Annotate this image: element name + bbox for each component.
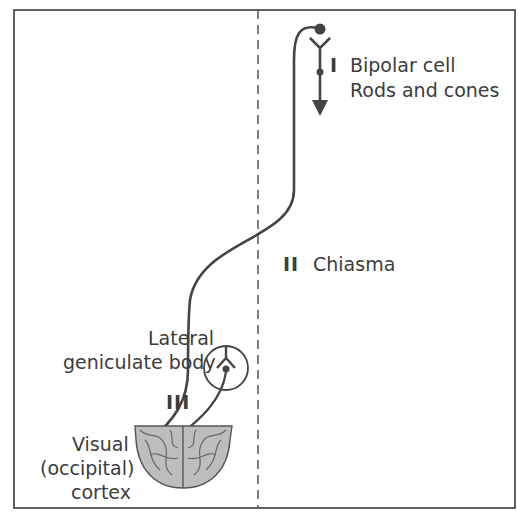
ganglion-cell-body bbox=[315, 24, 326, 35]
bipolar-cell-label: Bipolar cell bbox=[350, 53, 455, 77]
stage-3-numeral: III bbox=[166, 390, 190, 414]
cortex-label: cortex bbox=[71, 480, 131, 504]
chiasma-label: Chiasma bbox=[313, 252, 395, 276]
lateral-label: Lateral bbox=[148, 326, 214, 350]
bipolar-cell-body bbox=[317, 69, 324, 76]
stage-1-numeral: I bbox=[330, 53, 338, 77]
lgb-synapse-lines bbox=[217, 346, 235, 368]
occipital-label: (occipital) bbox=[40, 456, 134, 480]
geniculate-body-label: geniculate body bbox=[63, 350, 216, 374]
optic-pathway-line bbox=[150, 27, 318, 440]
receptor-arrow-head bbox=[312, 100, 328, 116]
occipital-cortex-illustration bbox=[135, 426, 232, 488]
visual-label: Visual bbox=[72, 432, 129, 456]
lgb-cell-body bbox=[223, 366, 230, 373]
stage-2-numeral: II bbox=[283, 252, 299, 276]
rods-cones-label: Rods and cones bbox=[350, 78, 499, 102]
